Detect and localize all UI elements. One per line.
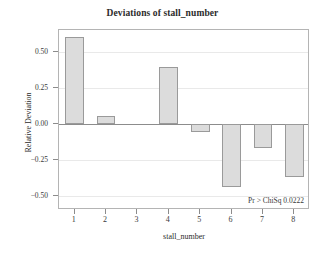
x-tick-label: 7 [252,215,272,224]
x-tick-mark [293,209,294,214]
y-tick-label: 0.50 [0,46,48,55]
x-tick-label: 4 [158,215,178,224]
x-tick-mark [199,209,200,214]
y-tick-mark [53,159,58,160]
chart-title: Deviations of stall_number [0,8,325,18]
x-axis-label: stall_number [58,232,310,241]
x-tick-label: 2 [95,215,115,224]
bar-7 [254,124,273,148]
y-tick-label: 0.00 [0,118,48,127]
y-tick-mark [53,51,58,52]
x-tick-label: 5 [189,215,209,224]
x-tick-mark [74,209,75,214]
bar-5 [191,124,210,133]
x-tick-mark [262,209,263,214]
y-tick-label: 0.25 [0,82,48,91]
x-tick-label: 6 [221,215,241,224]
bar-6 [222,124,241,187]
x-tick-label: 3 [126,215,146,224]
y-tick-mark [53,87,58,88]
bar-4 [159,67,178,123]
bar-8 [285,124,304,177]
plot-area: Pr > ChiSq 0.0222 [58,29,309,209]
bar-2 [97,116,116,123]
y-tick-mark [53,123,58,124]
x-tick-mark [136,209,137,214]
x-tick-label: 8 [283,215,303,224]
chart-container: Deviations of stall_number Relative Devi… [0,0,325,258]
y-tick-label: −0.50 [0,190,48,199]
x-tick-mark [231,209,232,214]
bar-1 [65,37,84,123]
y-tick-label: −0.25 [0,154,48,163]
x-tick-mark [168,209,169,214]
x-tick-mark [105,209,106,214]
gridline [59,88,308,89]
x-tick-label: 1 [64,215,84,224]
gridline [59,160,308,161]
chisq-annotation: Pr > ChiSq 0.0222 [248,196,304,205]
y-tick-mark [53,195,58,196]
gridline [59,52,308,53]
